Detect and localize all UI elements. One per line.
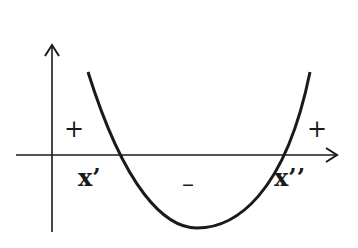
y-axis (45, 45, 59, 232)
sign-right-positive: + (307, 115, 327, 143)
parabola-curve (88, 72, 310, 228)
x-axis (16, 148, 337, 162)
sign-diagram: + + – x’ x’’ (0, 0, 358, 248)
root-label-left: x’ (78, 163, 101, 192)
root-label-right: x’’ (274, 163, 305, 192)
sign-left-positive: + (64, 115, 84, 143)
sign-middle-negative: – (182, 170, 194, 198)
